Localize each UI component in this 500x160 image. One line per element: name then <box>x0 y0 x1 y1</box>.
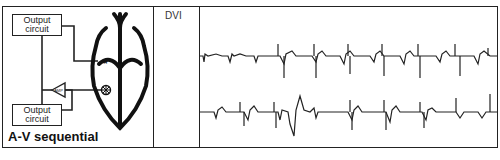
circuit-label: circuit <box>13 115 61 124</box>
circuit-label: circuit <box>13 25 61 34</box>
pacing-mode-label: DVI <box>165 10 182 21</box>
output-circuit-bottom: Output circuit <box>12 104 62 126</box>
heart-icon <box>92 14 147 128</box>
ecg-panel <box>200 6 498 148</box>
ecg-traces <box>200 6 498 148</box>
diagram-caption: A-V sequential <box>8 129 98 144</box>
pacemaker-diagram-panel: AMP * Output circuit Output circuit A-V … <box>2 6 154 148</box>
pacing-mode-panel: DVI <box>154 6 200 148</box>
atrial-electrode-marker: * <box>103 57 108 71</box>
svg-text:AMP: AMP <box>54 88 63 93</box>
output-circuit-top: Output circuit <box>12 14 62 36</box>
